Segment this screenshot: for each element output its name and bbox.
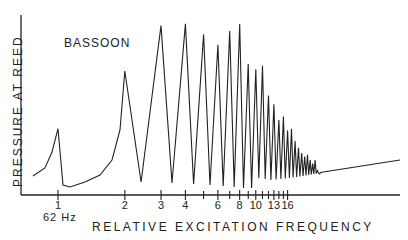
chart-title: BASSOON — [64, 36, 130, 50]
x-tick-label: 4 — [182, 199, 188, 211]
x-tick-label: 8 — [237, 199, 243, 211]
x-tick-label: 6 — [215, 199, 221, 211]
y-axis-label: PRESSURE AT REED — [11, 47, 25, 187]
base-frequency-label: 62 Hz — [43, 211, 77, 223]
x-tick-label: 10 — [250, 199, 262, 211]
x-tick-label: 1 — [55, 199, 61, 211]
x-tick-label: 13 — [268, 199, 280, 211]
resonance-curve-chart — [0, 0, 408, 240]
x-tick-label: 16 — [281, 199, 293, 211]
x-axis-label: RELATIVE EXCITATION FREQUENCY — [92, 220, 374, 234]
x-tick-label: 3 — [158, 199, 164, 211]
x-tick-label: 2 — [122, 199, 128, 211]
